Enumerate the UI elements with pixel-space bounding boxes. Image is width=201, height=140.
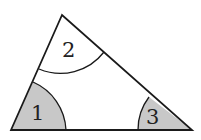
angle-2-label: 2 <box>62 38 75 62</box>
angle-1-label: 1 <box>31 101 44 125</box>
angle-3-label: 3 <box>146 105 159 129</box>
triangle-diagram: 1 2 3 <box>0 0 201 140</box>
